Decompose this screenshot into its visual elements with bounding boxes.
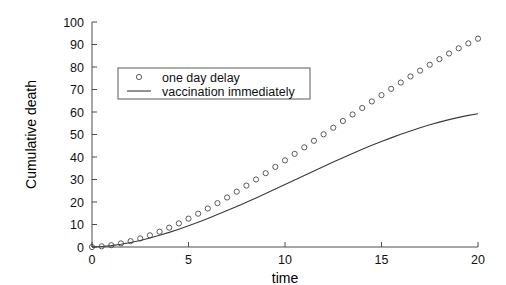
y-tick-label: 40 bbox=[70, 151, 84, 165]
series-marker-0 bbox=[167, 225, 172, 230]
y-tick-label: 20 bbox=[70, 196, 84, 210]
x-axis-title: time bbox=[272, 270, 299, 285]
series-marker-0 bbox=[331, 125, 336, 130]
series-marker-0 bbox=[379, 93, 384, 98]
figure-canvas: 010203040506070809010005101520 timeCumul… bbox=[0, 0, 506, 285]
axis-spines bbox=[92, 22, 478, 247]
series-marker-0 bbox=[427, 62, 432, 67]
series-marker-0 bbox=[398, 80, 403, 85]
series-marker-0 bbox=[408, 74, 413, 79]
series-marker-0 bbox=[263, 171, 268, 176]
x-tick-label: 20 bbox=[471, 253, 485, 267]
series-marker-0 bbox=[311, 138, 316, 143]
series-marker-0 bbox=[340, 118, 345, 123]
series-marker-0 bbox=[186, 216, 191, 221]
series-marker-0 bbox=[205, 206, 210, 211]
y-axis-title: Cumulative death bbox=[23, 80, 39, 189]
axis-titles: timeCumulative death bbox=[23, 80, 298, 285]
series-marker-0 bbox=[350, 112, 355, 117]
series-marker-0 bbox=[475, 36, 480, 41]
y-tick-label: 70 bbox=[70, 83, 84, 97]
series-marker-0 bbox=[273, 164, 278, 169]
x-tick-label: 0 bbox=[89, 253, 96, 267]
series-marker-0 bbox=[225, 195, 230, 200]
y-tick-label: 90 bbox=[70, 38, 84, 52]
series-marker-0 bbox=[360, 105, 365, 110]
chart-legend[interactable]: one day delayvaccination immediately bbox=[118, 68, 310, 99]
series-marker-0 bbox=[234, 189, 239, 194]
series-marker-0 bbox=[418, 68, 423, 73]
series-marker-0 bbox=[215, 201, 220, 206]
series-marker-0 bbox=[369, 99, 374, 104]
x-tick-label: 5 bbox=[185, 253, 192, 267]
y-tick-label: 100 bbox=[63, 16, 84, 30]
y-tick-label: 0 bbox=[77, 241, 84, 255]
series-marker-0 bbox=[282, 158, 287, 163]
series-marker-0 bbox=[244, 183, 249, 188]
legend-label-1: vaccination immediately bbox=[162, 85, 295, 99]
series-marker-0 bbox=[437, 57, 442, 62]
series-marker-0 bbox=[389, 86, 394, 91]
x-tick-label: 10 bbox=[278, 253, 292, 267]
axes: 010203040506070809010005101520 bbox=[63, 16, 485, 268]
series-marker-0 bbox=[456, 46, 461, 51]
y-tick-label: 10 bbox=[70, 218, 84, 232]
y-tick-label: 60 bbox=[70, 106, 84, 120]
series-marker-0 bbox=[321, 132, 326, 137]
legend-label-0: one day delay bbox=[162, 71, 241, 85]
series-marker-0 bbox=[466, 41, 471, 46]
series-marker-0 bbox=[302, 145, 307, 150]
series-marker-0 bbox=[157, 229, 162, 234]
y-tick-label: 50 bbox=[70, 128, 84, 142]
series-marker-0 bbox=[118, 241, 123, 246]
series-marker-0 bbox=[292, 151, 297, 156]
x-tick-label: 15 bbox=[375, 253, 389, 267]
y-tick-label: 80 bbox=[70, 61, 84, 75]
series-marker-0 bbox=[253, 177, 258, 182]
series-marker-0 bbox=[176, 221, 181, 226]
y-tick-label: 30 bbox=[70, 173, 84, 187]
chart-plot: 010203040506070809010005101520 timeCumul… bbox=[0, 0, 506, 285]
series-marker-0 bbox=[196, 211, 201, 216]
series-marker-0 bbox=[446, 51, 451, 56]
series-line-1 bbox=[92, 114, 478, 247]
